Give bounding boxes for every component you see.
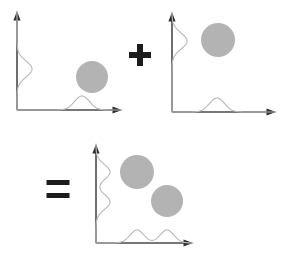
figure-root <box>0 0 286 259</box>
panel-right-x-marginal-curve <box>172 98 276 112</box>
panel-right-blob-1 <box>201 23 235 57</box>
panel-result-blob-2 <box>151 185 183 217</box>
panels-layer <box>13 11 276 247</box>
panel-left-y-marginal-curve <box>17 11 32 110</box>
operator-equals <box>47 180 70 198</box>
panel-left-blob-1 <box>76 61 108 93</box>
operator-plus <box>129 44 151 66</box>
panel-left <box>13 11 122 114</box>
plus-icon-vertical-bar <box>137 44 143 66</box>
panel-right <box>168 12 276 116</box>
panel-result-blob-1 <box>120 155 154 189</box>
panel-right-y-marginal-curve <box>172 12 187 112</box>
diagram-canvas <box>0 0 286 259</box>
panel-result <box>92 144 193 247</box>
equals-icon-bottom-bar <box>47 193 70 198</box>
panel-result-y-marginal-curve <box>96 144 110 243</box>
equals-icon-top-bar <box>47 180 70 185</box>
panel-result-x-marginal-curve <box>96 230 193 243</box>
panel-left-x-marginal-curve <box>17 96 122 110</box>
